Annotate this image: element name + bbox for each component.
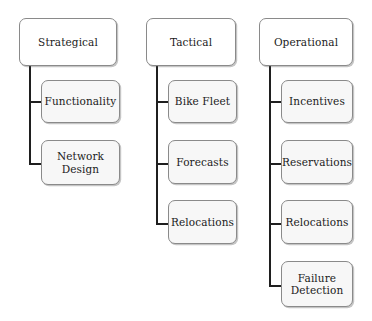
- node-label: Forecasts: [172, 156, 232, 169]
- node-label: Operational: [270, 36, 342, 49]
- node-label: Incentives: [285, 95, 349, 108]
- diagram-canvas: StrategicalFunctionalityNetwork DesignTa…: [0, 0, 372, 321]
- connector-trunk-strategical: [29, 66, 31, 163]
- node-label: Reservations: [278, 156, 356, 169]
- node-operational-child-3[interactable]: Failure Detection: [281, 261, 353, 307]
- connector-stub-operational-2: [269, 223, 281, 225]
- connector-stub-strategical-1: [29, 163, 41, 165]
- node-label: Relocations: [281, 216, 352, 229]
- node-label: Relocations: [167, 216, 238, 229]
- node-tactical-child-2[interactable]: Relocations: [168, 200, 237, 244]
- node-label: Failure Detection: [287, 272, 348, 297]
- connector-trunk-operational: [269, 66, 271, 285]
- connector-trunk-tactical: [156, 66, 158, 223]
- node-label: Bike Fleet: [171, 95, 234, 108]
- node-label: Tactical: [166, 36, 216, 49]
- node-operational[interactable]: Operational: [259, 18, 353, 66]
- node-label: Functionality: [41, 95, 121, 108]
- node-label: Strategical: [34, 36, 102, 49]
- connector-stub-operational-0: [269, 101, 281, 103]
- node-strategical-child-0[interactable]: Functionality: [41, 80, 120, 123]
- node-strategical[interactable]: Strategical: [19, 18, 117, 66]
- connector-stub-tactical-0: [156, 101, 168, 103]
- connector-stub-strategical-0: [29, 101, 41, 103]
- node-label: Network Design: [53, 150, 108, 175]
- connector-stub-operational-3: [269, 285, 281, 287]
- node-tactical-child-0[interactable]: Bike Fleet: [168, 80, 237, 123]
- node-strategical-child-1[interactable]: Network Design: [41, 140, 120, 185]
- node-tactical[interactable]: Tactical: [146, 18, 236, 66]
- connector-stub-tactical-1: [156, 163, 168, 165]
- node-operational-child-2[interactable]: Relocations: [281, 200, 353, 244]
- node-tactical-child-1[interactable]: Forecasts: [168, 140, 237, 184]
- node-operational-child-1[interactable]: Reservations: [281, 140, 353, 184]
- node-operational-child-0[interactable]: Incentives: [281, 80, 353, 123]
